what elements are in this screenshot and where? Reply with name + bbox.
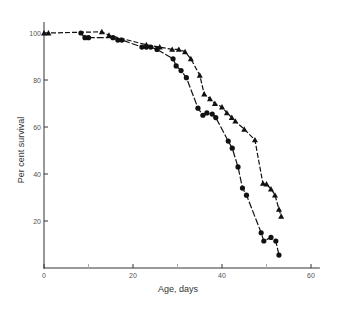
- circle-marker: [276, 252, 281, 257]
- y-axis-label: Per cent survival: [16, 117, 26, 184]
- circle-marker: [86, 35, 91, 40]
- circle-marker: [273, 238, 278, 243]
- triangle-marker: [207, 96, 213, 101]
- circle-marker: [170, 56, 175, 61]
- triangle-marker: [276, 206, 282, 211]
- y-tick-label: 100: [29, 30, 41, 37]
- data-series: [41, 29, 284, 258]
- circles-line: [81, 33, 279, 255]
- triangles-line: [44, 32, 281, 217]
- circle-marker: [230, 146, 235, 151]
- circle-marker: [240, 186, 245, 191]
- triangle-marker: [201, 91, 207, 96]
- circle-marker: [184, 75, 189, 80]
- circle-marker: [235, 164, 240, 169]
- triangle-marker: [212, 101, 218, 106]
- triangle-marker: [197, 72, 203, 77]
- circle-marker: [195, 106, 200, 111]
- x-tick-label: 0: [42, 272, 46, 279]
- circle-marker: [261, 238, 266, 243]
- circle-marker: [244, 193, 249, 198]
- circle-marker: [259, 230, 264, 235]
- y-tick-label: 20: [33, 218, 41, 225]
- circle-marker: [268, 235, 273, 240]
- triangle-marker: [278, 213, 284, 218]
- circle-marker: [178, 68, 183, 73]
- x-tick-label: 40: [218, 272, 226, 279]
- x-axis-label: Age, days: [158, 284, 199, 294]
- y-tick-label: 60: [33, 124, 41, 131]
- triangle-marker: [99, 29, 105, 34]
- survival-chart: 204060801000204060 Age, days Per cent su…: [0, 0, 342, 312]
- circle-marker: [213, 115, 218, 120]
- circle-marker: [78, 30, 83, 35]
- triangle-marker: [106, 32, 112, 37]
- triangle-marker: [272, 192, 278, 197]
- y-tick-label: 80: [33, 77, 41, 84]
- triangle-marker: [219, 104, 225, 109]
- y-tick-label: 40: [33, 171, 41, 178]
- x-tick-label: 20: [129, 272, 137, 279]
- x-tick-label: 60: [307, 272, 315, 279]
- circle-marker: [174, 63, 179, 68]
- circle-marker: [204, 110, 209, 115]
- circle-marker: [226, 139, 231, 144]
